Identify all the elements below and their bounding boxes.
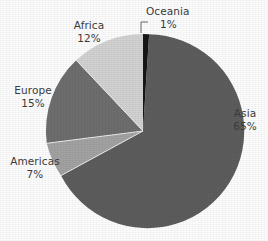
chart-plot-area: Oceania 1% Africa 12% Europe 15% America… [0, 0, 268, 241]
pie-label-asia-value: 65% [224, 120, 266, 133]
pie-label-americas: Americas 7% [0, 155, 70, 180]
pie-label-oceania-value: 1% [160, 18, 190, 31]
pie-label-oceania-name: Oceania [146, 5, 190, 18]
pie-label-oceania: Oceania 1% [146, 5, 190, 30]
pie-label-americas-value: 7% [0, 168, 70, 181]
pie-label-africa: Africa 12% [61, 19, 117, 44]
pie-label-europe-value: 15% [4, 97, 62, 110]
pie-chart-screenshot: Oceania 1% Africa 12% Europe 15% America… [0, 0, 268, 241]
pie-label-africa-value: 12% [61, 32, 117, 45]
pie-label-europe-name: Europe [4, 84, 62, 97]
pie-label-europe: Europe 15% [4, 84, 62, 109]
pie-label-americas-name: Americas [0, 155, 70, 168]
pie-label-africa-name: Africa [61, 19, 117, 32]
pie-label-asia-name: Asia [224, 107, 266, 120]
pie-label-asia: Asia 65% [224, 107, 266, 132]
